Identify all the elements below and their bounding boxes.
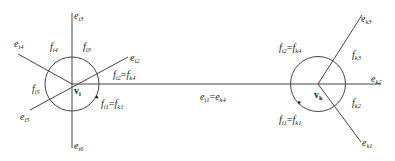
label-e-k3: ek3 [361, 13, 372, 25]
label-e-i3: ei3 [74, 10, 84, 22]
graph-diagram: ei3 ei4 ei2 ei5 ei6 fi4 fi3 fi5 vi fi2=f… [0, 0, 395, 161]
label-left-eq-bottom: fi1=fk1 [101, 98, 123, 110]
vertex-i-group [18, 13, 128, 148]
label-e-i5: ei5 [20, 111, 30, 123]
label-left-eq-top: fi2=fk4 [113, 69, 136, 81]
label-shared-edge: ei1=ek4 [200, 91, 226, 103]
label-e-k2: ek2 [371, 73, 382, 85]
label-e-i6: ei6 [74, 140, 84, 152]
edge-k1 [318, 84, 361, 142]
label-f-i5: fi5 [32, 83, 41, 95]
label-vertex-k: vk [314, 89, 323, 101]
label-right-eq-top: fi2=fk4 [279, 42, 302, 54]
label-f-k3: fk3 [352, 49, 362, 61]
vertex-k-group [291, 15, 382, 142]
label-e-i4: ei4 [14, 38, 24, 50]
label-f-i4: fi4 [50, 41, 59, 53]
label-e-i2: ei2 [130, 52, 140, 64]
label-vertex-i: vi [74, 85, 81, 97]
label-right-eq-bottom: fi1=fk1 [279, 114, 301, 126]
edge-k3 [318, 15, 362, 84]
label-f-k2: fk2 [352, 97, 362, 109]
label-f-i3: fi3 [83, 41, 92, 53]
label-e-k1: ek1 [362, 137, 373, 149]
